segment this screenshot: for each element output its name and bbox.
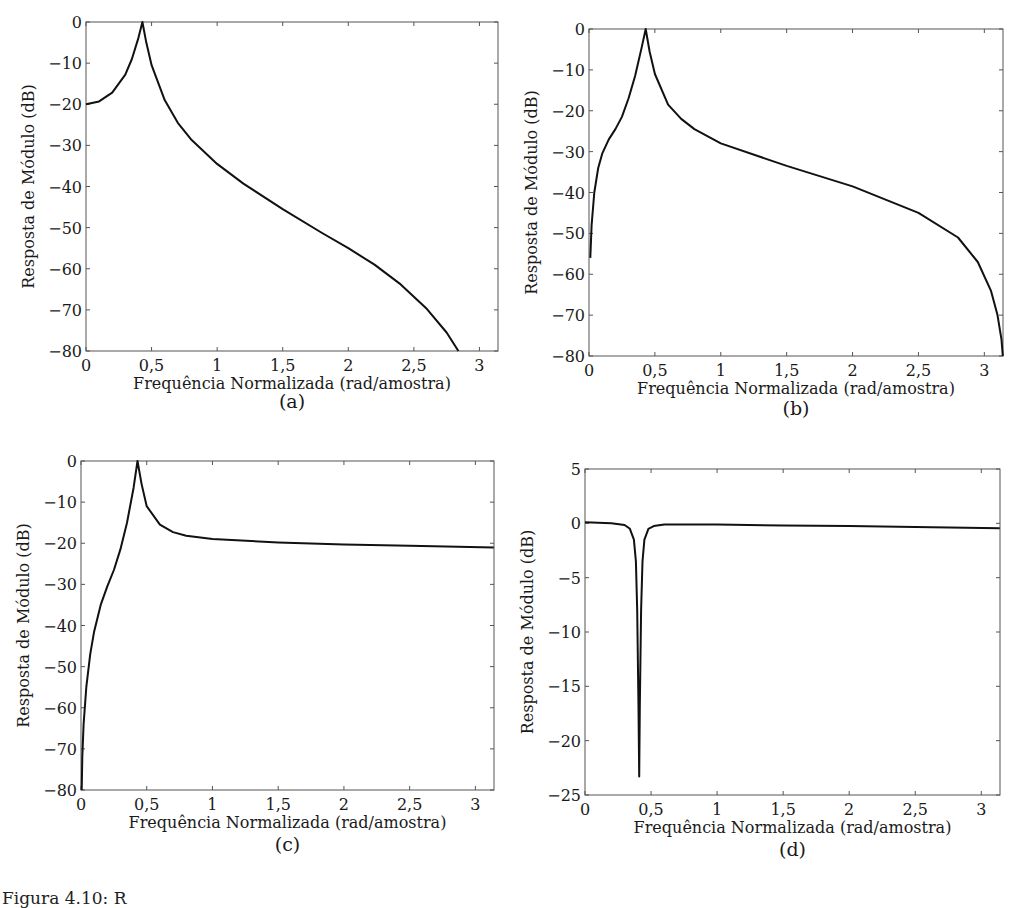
y-tick-label: −50 bbox=[551, 224, 585, 243]
y-tick-label: 5 bbox=[571, 460, 581, 479]
figure-caption-partial: Figura 4.10: R bbox=[2, 888, 127, 908]
y-tick-label: −60 bbox=[551, 265, 585, 284]
series-line bbox=[86, 22, 458, 351]
x-tick-label: 3 bbox=[979, 361, 989, 380]
y-tick-label: −60 bbox=[48, 260, 82, 279]
x-tick-label: 0 bbox=[580, 800, 590, 819]
x-tick-label: 2 bbox=[343, 356, 353, 375]
y-tick-label: 0 bbox=[571, 514, 581, 533]
x-tick-label: 2,5 bbox=[401, 356, 426, 375]
x-tick-label: 0,5 bbox=[139, 356, 164, 375]
y-tick-label: −70 bbox=[551, 306, 585, 325]
y-tick-label: −10 bbox=[43, 493, 77, 512]
y-tick-label: −80 bbox=[48, 342, 82, 361]
x-tick-label: 2,5 bbox=[397, 795, 422, 814]
x-axis-label: Frequência Normalizada (rad/amostra) bbox=[634, 818, 952, 837]
x-tick-label: 0 bbox=[584, 361, 594, 380]
x-tick-label: 1 bbox=[716, 361, 726, 380]
chart-b: 00,511,522,530−10−20−30−40−50−60−70−80Fr… bbox=[507, 0, 1014, 440]
y-tick-label: −25 bbox=[547, 786, 581, 805]
y-axis-label: Resposta de Módulo (dB) bbox=[14, 523, 33, 728]
y-tick-label: −70 bbox=[43, 740, 77, 759]
y-axis-label: Resposta de Módulo (dB) bbox=[518, 530, 537, 735]
x-tick-label: 0 bbox=[76, 795, 86, 814]
x-axis-label: Frequência Normalizada (rad/amostra) bbox=[129, 813, 447, 832]
y-tick-label: −5 bbox=[557, 569, 581, 588]
plot-frame bbox=[86, 22, 498, 351]
x-tick-label: 1,5 bbox=[770, 800, 795, 819]
y-tick-label: −10 bbox=[551, 61, 585, 80]
x-tick-label: 1 bbox=[207, 795, 217, 814]
y-tick-label: −20 bbox=[547, 732, 581, 751]
x-tick-label: 3 bbox=[470, 795, 480, 814]
x-tick-label: 1 bbox=[212, 356, 222, 375]
y-tick-label: −70 bbox=[48, 301, 82, 320]
series-line bbox=[590, 29, 1003, 356]
y-tick-label: −15 bbox=[547, 677, 581, 696]
x-tick-label: 2,5 bbox=[906, 361, 931, 380]
x-tick-label: 1 bbox=[712, 800, 722, 819]
panel-label: (d) bbox=[779, 838, 806, 860]
x-tick-label: 2 bbox=[339, 795, 349, 814]
x-tick-label: 1,5 bbox=[265, 795, 290, 814]
y-tick-label: −40 bbox=[48, 178, 82, 197]
y-tick-label: −10 bbox=[547, 623, 581, 642]
panel-label: (b) bbox=[783, 397, 810, 419]
series-line bbox=[82, 461, 494, 790]
x-tick-label: 3 bbox=[976, 800, 986, 819]
chart-a: 00,511,522,530−10−20−30−40−50−60−70−80Fr… bbox=[0, 0, 507, 440]
series-line bbox=[585, 522, 1000, 776]
y-axis-label: Resposta de Módulo (dB) bbox=[19, 84, 38, 289]
plot-frame bbox=[81, 461, 494, 790]
y-tick-label: −50 bbox=[48, 219, 82, 238]
y-tick-label: 0 bbox=[72, 13, 82, 32]
chart-d: 00,511,522,5350−5−10−15−20−25Frequência … bbox=[507, 440, 1014, 885]
x-tick-label: 2,5 bbox=[903, 800, 928, 819]
x-tick-label: 1,5 bbox=[270, 356, 295, 375]
y-tick-label: −80 bbox=[551, 347, 585, 366]
y-tick-label: 0 bbox=[575, 20, 585, 39]
y-tick-label: −50 bbox=[43, 658, 77, 677]
panel-d: 00,511,522,5350−5−10−15−20−25Frequência … bbox=[507, 440, 1014, 885]
panel-a: 00,511,522,530−10−20−30−40−50−60−70−80Fr… bbox=[0, 0, 507, 440]
panel-c: 00,511,522,530−10−20−30−40−50−60−70−80Fr… bbox=[0, 440, 507, 885]
y-tick-label: −20 bbox=[48, 95, 82, 114]
y-tick-label: −40 bbox=[551, 184, 585, 203]
x-tick-label: 0 bbox=[81, 356, 91, 375]
x-tick-label: 2 bbox=[847, 361, 857, 380]
panel-b: 00,511,522,530−10−20−30−40−50−60−70−80Fr… bbox=[507, 0, 1014, 440]
y-tick-label: −30 bbox=[551, 143, 585, 162]
chart-c: 00,511,522,530−10−20−30−40−50−60−70−80Fr… bbox=[0, 440, 507, 885]
plot-frame bbox=[589, 29, 1003, 356]
panel-label: (c) bbox=[275, 833, 300, 855]
x-tick-label: 0,5 bbox=[638, 800, 663, 819]
panel-label: (a) bbox=[279, 390, 305, 412]
x-tick-label: 3 bbox=[474, 356, 484, 375]
y-tick-label: −80 bbox=[43, 781, 77, 800]
y-tick-label: −20 bbox=[551, 102, 585, 121]
y-tick-label: 0 bbox=[67, 452, 77, 471]
x-tick-label: 0,5 bbox=[134, 795, 159, 814]
y-tick-label: −30 bbox=[43, 575, 77, 594]
x-tick-label: 2 bbox=[844, 800, 854, 819]
y-axis-label: Resposta de Módulo (dB) bbox=[522, 90, 541, 295]
x-tick-label: 1,5 bbox=[774, 361, 799, 380]
x-axis-label: Frequência Normalizada (rad/amostra) bbox=[637, 379, 955, 398]
y-tick-label: −40 bbox=[43, 617, 77, 636]
y-tick-label: −60 bbox=[43, 699, 77, 718]
y-tick-label: −20 bbox=[43, 534, 77, 553]
x-tick-label: 0,5 bbox=[642, 361, 667, 380]
y-tick-label: −10 bbox=[48, 54, 82, 73]
y-tick-label: −30 bbox=[48, 136, 82, 155]
plot-frame bbox=[585, 469, 1000, 795]
